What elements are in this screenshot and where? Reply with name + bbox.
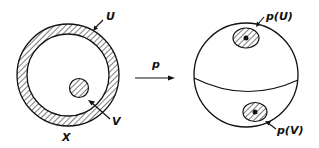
image-u-point-icon — [244, 36, 249, 41]
label-v: V — [112, 115, 122, 128]
label-p: p — [151, 58, 160, 71]
label-x: X — [61, 131, 71, 144]
covering-map-diagram: U V X p p(U) p(V) — [0, 0, 319, 148]
image-v-point-icon — [253, 110, 258, 115]
label-u: U — [106, 10, 115, 23]
label-p-of-u: p(U) — [265, 10, 293, 23]
label-p-of-v: p(V) — [276, 124, 303, 137]
region-v-disk — [70, 79, 89, 98]
